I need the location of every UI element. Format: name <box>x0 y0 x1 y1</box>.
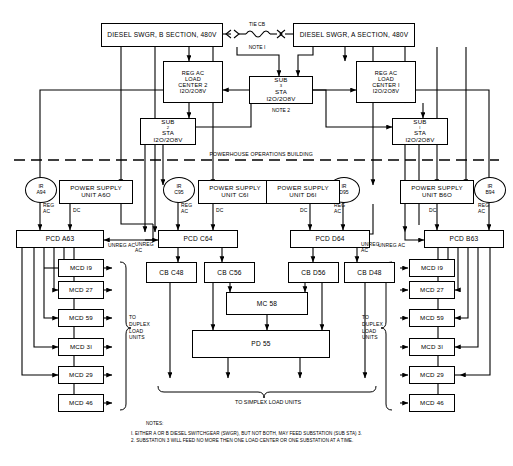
inverter-ir-a94[interactable]: IR A94 <box>25 177 57 203</box>
mcd-right-label: MCD I9 <box>421 265 443 272</box>
power-supply-unit-d61[interactable]: POWER SUPPLY UNIT D6I <box>266 180 340 204</box>
list-item[interactable]: MCD 46 <box>58 394 104 412</box>
list-item[interactable]: MCD 59 <box>409 309 455 327</box>
pcd-c64-label: PCD C64 <box>183 235 212 242</box>
powerhouse-building-label: POWERHOUSE OPERATIONS BUILDING <box>203 146 313 164</box>
dc-label-a: DC <box>73 208 81 214</box>
sub1-name: SUBI STA <box>413 119 426 138</box>
sub3-name: SUB3 STA <box>274 77 287 96</box>
pcd-d64-label: PCD D64 <box>315 235 344 242</box>
notes-block: NOTES: <box>146 421 163 428</box>
psu-c61-line2: UNIT C6I <box>221 192 248 199</box>
notes-heading: NOTES: <box>146 421 163 428</box>
mc-58[interactable]: MC 58 <box>226 292 308 315</box>
swgr-a-label: DIESEL SWGR, A SECTION, 480V <box>300 31 409 38</box>
note1-ref-label: NOTE I <box>234 44 280 50</box>
note2-ref-label: NOTE 2 <box>252 107 310 113</box>
power-supply-unit-a60[interactable]: POWER SUPPLY UNIT A6O <box>59 180 133 204</box>
ir-c95-num: C95 <box>174 190 183 196</box>
duplex-load-units-label-right: TO DUPLEX LOAD UNITS <box>362 314 383 341</box>
list-item[interactable]: MCD 3I <box>58 338 104 356</box>
pcd-d64[interactable]: PCD D64 <box>290 230 370 248</box>
pcd-a63-label: PCD A63 <box>46 235 75 242</box>
power-supply-unit-b60[interactable]: POWER SUPPLY UNIT B6O <box>400 180 474 204</box>
swgr-b-label: DIESEL SWGR, B SECTION, 480V <box>107 31 216 38</box>
tie-cb-label: TIE CB <box>234 21 280 27</box>
building-text: POWERHOUSE OPERATIONS BUILDING <box>209 151 313 157</box>
pcd-c64[interactable]: PCD C64 <box>158 230 238 248</box>
list-item[interactable]: MCD I9 <box>409 259 455 277</box>
cb-c48[interactable]: CB C48 <box>146 262 197 283</box>
power-supply-unit-c61[interactable]: POWER SUPPLY UNIT C6I <box>198 180 272 204</box>
psu-a60-line2: UNIT A6O <box>81 192 111 199</box>
sub2-name: SUB2 STA <box>161 119 174 138</box>
cb-d48-label: CB D48 <box>357 269 381 276</box>
list-item[interactable]: MCD 29 <box>409 366 455 384</box>
reg-ac-load-center-1[interactable]: REG AC LOAD CENTER I I2O/2O8V <box>356 61 416 103</box>
mcd-right-label: MCD 29 <box>420 372 444 379</box>
cb-c56-label: CB C56 <box>217 269 241 276</box>
duplex-load-units-label-left: TO DUPLEX LOAD UNITS <box>129 314 150 341</box>
diesel-swgr-a-section[interactable]: DIESEL SWGR, A SECTION, 480V <box>293 23 415 47</box>
dc-label-d: DC <box>300 208 308 214</box>
list-item[interactable]: MCD 29 <box>58 366 104 384</box>
cb-c48-label: CB C48 <box>159 269 183 276</box>
list-item[interactable]: MCD 3I <box>409 338 455 356</box>
tie-cb-text: TIE CB <box>249 21 265 27</box>
note2-ref-text: NOTE 2 <box>272 107 290 113</box>
reg-ac-label-d: REG AC <box>334 203 345 215</box>
inverter-ir-b94[interactable]: IR B94 <box>474 177 506 203</box>
mcd-left-label: MCD 46 <box>69 400 93 407</box>
sub2-voltage: I2O/2O8V <box>153 137 182 144</box>
cb-d56-label: CB D56 <box>301 269 325 276</box>
dc-label-b: DC <box>429 208 437 214</box>
pcd-b63[interactable]: PCD B63 <box>424 230 504 248</box>
list-item[interactable]: MCD 27 <box>58 281 104 299</box>
reg-ac-label-c: REG AC <box>181 203 192 215</box>
lc2-line4: I2O/2O8V <box>180 88 206 94</box>
list-item[interactable]: MCD 46 <box>409 394 455 412</box>
sub2-sta[interactable]: SUB2 STA I2O/2O8V <box>140 118 196 145</box>
lc1-line4: I2O/2O8V <box>373 88 399 94</box>
list-item[interactable]: MCD I9 <box>58 259 104 277</box>
list-item[interactable]: MCD 27 <box>409 281 455 299</box>
diagram-canvas: DIESEL SWGR, B SECTION, 480V DIESEL SWGR… <box>0 0 513 466</box>
mc-58-label: MC 58 <box>257 300 277 307</box>
mcd-left-label: MCD I9 <box>70 265 92 272</box>
mcd-left-label: MCD 3I <box>70 344 92 351</box>
mcd-left-label: MCD 29 <box>69 372 93 379</box>
sub1-sta[interactable]: SUBI STA I2O/2O8V <box>392 118 448 145</box>
note-item-2: 2. SUBSTATION 3 WILL FEED NO MORE THEN O… <box>131 438 353 445</box>
dc-label-c: DC <box>216 208 224 214</box>
unreg-ac-label-b: UNREG AC <box>378 243 405 249</box>
sub1-voltage: I2O/2O8V <box>405 137 434 144</box>
mcd-right-label: MCD 59 <box>420 315 444 322</box>
mcd-right-label: MCD 27 <box>420 287 444 294</box>
reg-ac-load-center-2[interactable]: REG AC LOAD CENTER 2 I2O/2O8V <box>163 61 223 103</box>
ir-d95-num: D95 <box>339 190 348 196</box>
pcd-a63[interactable]: PCD A63 <box>16 230 104 248</box>
sub3-sta[interactable]: SUB3 STA I2O/2O8V <box>249 76 313 104</box>
reg-ac-label-a: REG AC <box>43 203 54 215</box>
unreg-ac-label-a: UNREG AC <box>108 243 135 249</box>
cb-d56[interactable]: CB D56 <box>288 262 339 283</box>
reg-ac-label-b: REG AC <box>478 203 489 215</box>
cb-c56[interactable]: CB C56 <box>204 262 255 283</box>
inverter-ir-c95[interactable]: IR C95 <box>163 177 195 203</box>
mcd-right-label: MCD 3I <box>421 344 443 351</box>
cb-d48[interactable]: CB D48 <box>344 262 395 283</box>
simplex-text: TO SIMPLEX LOAD UNITS <box>235 399 301 405</box>
mcd-left-label: MCD 27 <box>69 287 93 294</box>
note-item-1: I. EITHER A OR B DIESEL SWITCHGEAR (SWGR… <box>131 431 362 438</box>
unreg-ac-label-c: UNREG AC <box>135 242 154 254</box>
ir-a94-num: A94 <box>36 190 45 196</box>
diesel-swgr-b-section[interactable]: DIESEL SWGR, B SECTION, 480V <box>101 23 223 47</box>
pd-55[interactable]: PD 55 <box>192 330 330 358</box>
psu-b60-line2: UNIT B6O <box>422 192 452 199</box>
note1-ref-text: NOTE I <box>249 44 266 50</box>
pd-55-label: PD 55 <box>251 340 270 347</box>
ir-b94-num: B94 <box>485 190 494 196</box>
sub3-voltage: I2O/2O8V <box>266 96 295 103</box>
list-item[interactable]: MCD 59 <box>58 309 104 327</box>
unreg-ac-label-d: UNREG AC <box>361 242 380 254</box>
